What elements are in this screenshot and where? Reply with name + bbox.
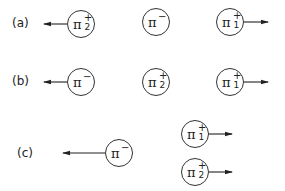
particle-symbol: π	[222, 76, 231, 89]
particle-c-pi-plus-1: π + 1	[181, 120, 209, 148]
particle-symbol: π	[73, 76, 82, 89]
particle-symbol: π	[148, 76, 157, 89]
particle-charge: −	[121, 143, 129, 153]
particle-symbol: π	[73, 18, 82, 31]
particle-index: 1	[234, 21, 240, 30]
row-label-b: (b)	[12, 75, 29, 87]
particle-index: 1	[234, 81, 240, 90]
particle-b-pi-plus-1: π + 1	[216, 68, 244, 96]
particle-b-pi-plus-2: π + 2	[142, 68, 170, 96]
particle-index: 1	[199, 133, 205, 142]
particle-symbol: π	[222, 16, 231, 29]
particle-charge: −	[83, 72, 91, 82]
particle-a-pi-plus-1: π + 1	[216, 8, 244, 36]
particle-charge: −	[158, 12, 166, 22]
particle-index: 2	[199, 171, 205, 180]
particle-b-pi-minus: π −	[67, 68, 95, 96]
particle-a-pi-minus: π −	[142, 8, 170, 36]
particle-index: 2	[85, 23, 91, 32]
particle-symbol: π	[187, 166, 196, 179]
particle-c-pi-minus: π −	[105, 139, 133, 167]
particle-symbol: π	[187, 128, 196, 141]
particle-c-pi-plus-2: π + 2	[181, 158, 209, 186]
row-label-c: (c)	[17, 147, 33, 159]
particle-symbol: π	[148, 16, 157, 29]
particle-index: 2	[160, 81, 166, 90]
row-label-a: (a)	[12, 17, 29, 29]
particle-a-pi-plus-2: π + 2	[67, 10, 95, 38]
particle-symbol: π	[111, 147, 120, 160]
